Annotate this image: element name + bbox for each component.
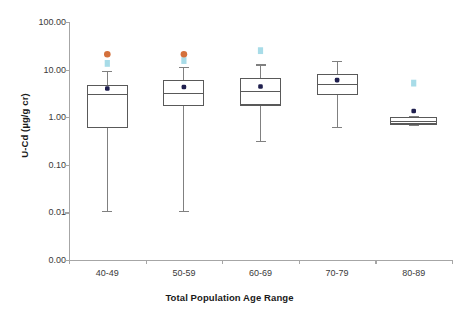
mean-marker [182, 85, 187, 90]
mean-marker [335, 78, 340, 83]
box-iqr [164, 80, 204, 105]
box-plot-40-49 [87, 51, 127, 211]
outlier-marker-orange [104, 51, 111, 58]
x-axis-title: Total Population Age Range [0, 292, 459, 303]
box-plot-50-59 [164, 51, 204, 211]
axes [65, 22, 453, 264]
box-plot-chart: U-Cd (µg/g cr) 100.0010.001.000.100.010.… [0, 0, 459, 319]
box-plots [87, 47, 436, 211]
mean-marker [411, 109, 416, 114]
outlier-marker-orange [181, 51, 188, 58]
box-plot-70-79 [317, 61, 357, 127]
outlier-marker-cyan [411, 80, 416, 87]
box-plot-80-89 [391, 80, 437, 125]
box-iqr [391, 117, 437, 124]
box-iqr [87, 85, 127, 127]
outlier-marker-cyan [258, 47, 263, 54]
box-iqr [241, 79, 281, 105]
mean-marker [105, 86, 110, 91]
mean-marker [258, 84, 263, 89]
outlier-marker-cyan [181, 57, 186, 64]
box-plot-60-69 [241, 47, 281, 141]
outlier-marker-cyan [105, 60, 110, 67]
plot-area [0, 0, 459, 319]
